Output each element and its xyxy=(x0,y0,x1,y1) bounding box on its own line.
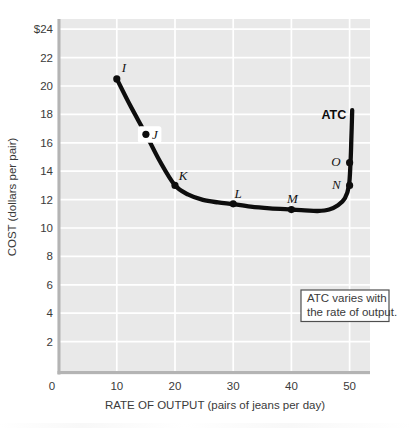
atc-chart-canvas: IJKLMNOATC ATC varies withthe rate of ou… xyxy=(0,0,411,428)
y-tick-label-4: 4 xyxy=(47,307,54,319)
data-point-O xyxy=(346,159,353,166)
y-tick-label-20: 20 xyxy=(40,80,53,92)
annotation-line-2: the rate of output. xyxy=(307,306,397,318)
x-tick-label-10: 10 xyxy=(110,380,123,392)
y-tick-label-16: 16 xyxy=(40,137,53,149)
data-point-N xyxy=(346,182,353,189)
data-point-M xyxy=(288,206,295,213)
x-tick-label-20: 20 xyxy=(169,380,182,392)
y-tick-label-2: 2 xyxy=(47,336,53,348)
x-tick-label-30: 30 xyxy=(227,380,240,392)
point-label-L: L xyxy=(234,186,242,201)
y-axis-line xyxy=(58,19,61,375)
point-label-K: K xyxy=(178,168,189,183)
y-tick-label-12: 12 xyxy=(40,194,53,206)
y-axis-title: COST (dollars per pair) xyxy=(6,138,18,257)
y-tick-label-24: $24 xyxy=(34,23,54,35)
annotation-layer: ATC varies withthe rate of output. xyxy=(301,290,397,322)
x-tick-label-50: 50 xyxy=(343,380,356,392)
data-point-I xyxy=(113,75,120,82)
x-axis-title: RATE OF OUTPUT (pairs of jeans per day) xyxy=(105,399,325,411)
x-axis-line xyxy=(58,371,371,374)
point-label-M: M xyxy=(286,191,299,206)
cropped-caption-smudge xyxy=(0,423,411,428)
y-tick-label-10: 10 xyxy=(40,222,53,234)
annotation-line-1: ATC varies with xyxy=(307,292,387,304)
y-tick-label-18: 18 xyxy=(40,108,53,120)
point-label-N: N xyxy=(331,177,342,192)
x-tick-label-0: 0 xyxy=(49,380,55,392)
curve-label-atc: ATC xyxy=(321,108,346,122)
y-tick-label-22: 22 xyxy=(40,52,53,64)
y-tick-label-6: 6 xyxy=(47,279,53,291)
y-tick-label-14: 14 xyxy=(40,165,53,177)
data-point-L xyxy=(230,200,237,207)
data-point-K xyxy=(171,182,178,189)
point-halo-J xyxy=(138,126,162,143)
data-point-J xyxy=(142,131,149,138)
atc-figure: IJKLMNOATC ATC varies withthe rate of ou… xyxy=(0,0,411,428)
y-tick-label-8: 8 xyxy=(47,250,53,262)
x-tick-label-40: 40 xyxy=(285,380,298,392)
point-label-O: O xyxy=(331,154,341,169)
point-label-I: I xyxy=(121,60,127,75)
